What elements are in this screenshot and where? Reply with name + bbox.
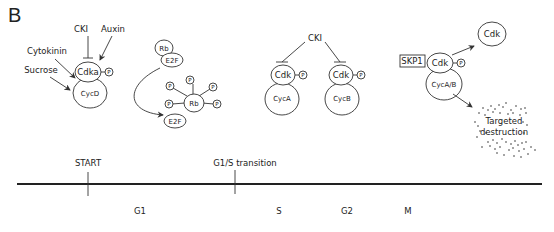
- g1-complex: CKI Auxin Cytokinin Sucrose CycD Cdka P: [24, 24, 125, 108]
- cdk-b-label: Cdk: [333, 70, 349, 80]
- destruction-arrow: [453, 94, 472, 107]
- rb-label: Rb: [159, 45, 169, 53]
- sucrose-arrow: [50, 77, 70, 90]
- inhibition-line: [282, 42, 305, 62]
- cyca-label: CycA: [273, 95, 291, 103]
- g1s-label: G1/S transition: [213, 158, 276, 168]
- cell-cycle-timeline: START G1/S transition G1 S G2 M: [17, 158, 542, 216]
- p-link: [172, 103, 185, 104]
- sucrose-label: Sucrose: [24, 65, 58, 75]
- phase-s-label: S: [276, 206, 281, 216]
- cdka-label: Cdka: [77, 67, 98, 77]
- panel-label: B: [8, 4, 21, 26]
- phospho-rb-label: Rb: [189, 100, 199, 108]
- cki-label-g1: CKI: [74, 24, 88, 34]
- cycb-label: CycB: [333, 95, 351, 103]
- phase-g2-label: G2: [341, 206, 353, 216]
- phase-g1-label: G1: [134, 206, 146, 216]
- cki-label-sg2: CKI: [308, 33, 322, 43]
- targeted-label: Targeted: [485, 116, 523, 126]
- release-arrow: [134, 68, 163, 115]
- cytokinin-arrow: [55, 59, 75, 78]
- cdk-a-label: Cdk: [275, 70, 291, 80]
- inhibition-line: [325, 42, 340, 62]
- cytokinin-label: Cytokinin: [27, 46, 67, 56]
- m-complex: SKP1 CycA/B Cdk P Cdk Targeted destruc: [400, 22, 536, 158]
- p-link: [199, 89, 210, 96]
- p-link: [173, 88, 187, 96]
- e2f-label: E2F: [166, 57, 179, 65]
- rb-pathway: Rb E2F Rb P P P P P E2F: [134, 40, 221, 128]
- cycab-label: CycA/B: [432, 81, 457, 89]
- auxin-arrow: [100, 36, 112, 60]
- cell-cycle-diagram: B CKI Auxin Cytokinin Sucrose CycD Cdka …: [0, 0, 554, 232]
- cycd-label: CycD: [81, 90, 99, 98]
- cdk-m-label: Cdk: [432, 58, 448, 68]
- skp1-label: SKP1: [401, 56, 423, 66]
- phase-m-label: M: [404, 206, 411, 216]
- auxin-label: Auxin: [101, 24, 125, 34]
- free-e2f-label: E2F: [169, 118, 182, 126]
- start-label: START: [75, 158, 102, 168]
- destruction-label: destruction: [480, 127, 528, 137]
- s-g2-complexes: CKI CycA Cdk P CycB Cdk P: [265, 33, 365, 115]
- free-cdk-label: Cdk: [484, 29, 500, 39]
- release-arrow: [452, 46, 474, 55]
